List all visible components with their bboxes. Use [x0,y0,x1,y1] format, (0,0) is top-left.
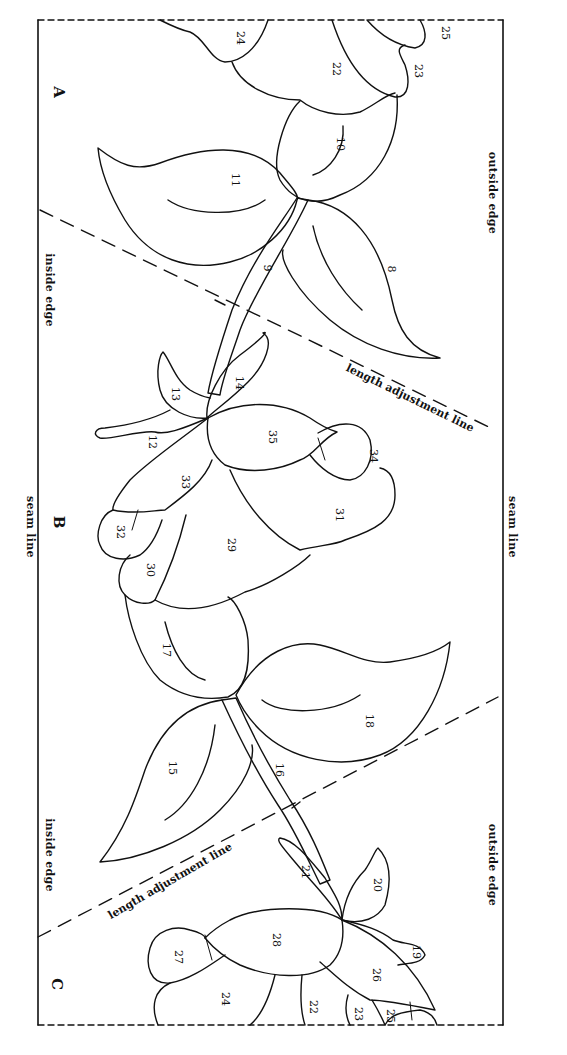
piece-number: 35 [266,430,279,444]
piece-13-outline [158,352,210,418]
piece-number: 29 [225,538,238,552]
piece-number: 30 [144,563,157,577]
stem-16-outline [222,698,330,884]
piece-number: 31 [333,508,346,522]
piece-number: 9 [261,265,274,272]
outside-edge-label-top: outside edge [486,152,499,234]
piece-number: 27 [172,950,185,964]
piece-number: 17 [160,643,173,657]
piece-number: 21 [299,865,312,879]
section-label-a: A [50,86,68,98]
inside-edge-label-top: inside edge [43,253,56,327]
piece-21-outline [279,838,342,920]
piece-number: 16 [273,763,286,777]
piece-number: 11 [229,173,242,187]
piece-number: 19 [410,945,423,959]
piece-number: 26 [370,968,383,982]
top-flower [160,20,425,114]
section-label-b: B [50,516,68,529]
piece-number: 33 [179,475,192,489]
outside-edge-label-bottom: outside edge [486,824,499,906]
leaf-8-vein [313,226,362,310]
piece-number: 14 [233,376,246,390]
seam-line-label-right: seam line [506,496,519,558]
piece-number: 22 [330,62,343,76]
piece-number: 34 [367,449,380,463]
piece-number: 10 [334,137,347,151]
piece-34-outline [310,424,371,480]
piece-number: 18 [363,714,376,728]
piece-29-outline [155,515,310,609]
seam-line-label-left: seam line [24,496,37,558]
piece-number: 23 [412,64,425,78]
pattern-border [38,20,503,1025]
leaf-18-outline [236,642,450,762]
pattern-drawing [0,0,567,1055]
length-adjustment-lines [38,210,498,937]
leaf-11-outline [98,148,297,265]
leaf-18-vein [262,695,360,711]
leaf-8-outline [283,200,440,358]
inside-edge-label-bottom: inside edge [43,818,56,892]
piece-number: 24 [234,31,247,45]
piece-number: 28 [270,933,283,947]
piece-number: 25 [439,26,452,40]
piece-22-bottom-outline [301,975,305,1025]
stem-9-outline [208,198,308,395]
piece-26-outline [320,920,435,1010]
piece-number: 23 [352,1007,365,1021]
piece-number: 32 [114,525,127,539]
piece-31-outline [230,468,395,550]
piece-32-outline [98,510,162,559]
piece-number: 13 [169,387,182,401]
piece-number: 24 [219,992,232,1006]
piece-number: 25 [384,1009,397,1023]
piece-number: 8 [385,266,398,273]
piece-17-outline [125,595,248,698]
piece-number: 20 [371,878,384,892]
piece-number: 15 [166,761,179,775]
section-label-c: C [48,978,66,990]
leaf-11-vein [168,200,265,212]
piece-27-outline [148,928,225,983]
piece-number: 22 [307,1000,320,1014]
piece-number: 12 [146,435,159,449]
